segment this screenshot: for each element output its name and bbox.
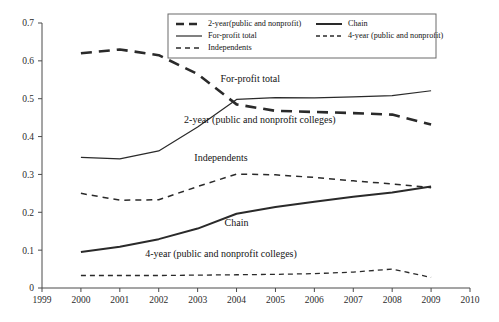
- series-line-chain: [81, 187, 431, 253]
- x-tick-label: 2006: [305, 295, 324, 305]
- line-chart: 00.10.20.30.40.50.60.7199920002001200220…: [0, 0, 499, 308]
- y-tick-label: 0.2: [22, 208, 34, 218]
- legend-label-chain: Chain: [348, 19, 368, 28]
- annotation-2-year-public-and-nonprofit-colleges: 2-year (public and nonprofit colleges): [184, 114, 336, 126]
- y-tick-label: 0.3: [22, 170, 34, 180]
- series-line-4-year-public-and-nonprofit: [81, 269, 431, 277]
- x-tick-label: 2005: [266, 295, 285, 305]
- annotation-4-year-public-and-nonprofit-colleges: 4-year (public and nonprofit colleges): [145, 248, 297, 260]
- y-tick-label: 0.1: [22, 246, 34, 256]
- x-tick-label: 2003: [188, 295, 207, 305]
- legend-label-for-profit-total: For-profit total: [208, 31, 257, 40]
- x-tick-label: 1999: [33, 295, 52, 305]
- series-line-independents: [81, 174, 431, 200]
- x-tick-label: 2001: [110, 295, 129, 305]
- series-line-for-profit-total: [81, 91, 431, 159]
- x-tick-label: 2008: [383, 295, 402, 305]
- legend-label-independents: Independents: [208, 43, 252, 52]
- legend-label-2-year-public-and-nonprofit: 2-year(public and nonprofit): [208, 19, 301, 28]
- figure-caption: [0, 308, 499, 322]
- x-tick-label: 2007: [344, 295, 363, 305]
- annotation-independents: Independents: [194, 152, 247, 163]
- annotation-chain: Chain: [225, 217, 249, 228]
- x-tick-label: 2010: [461, 295, 480, 305]
- x-tick-label: 2002: [149, 295, 168, 305]
- y-tick-label: 0.7: [22, 18, 34, 28]
- x-tick-label: 2009: [422, 295, 441, 305]
- y-tick-label: 0: [29, 283, 34, 293]
- y-tick-label: 0.6: [22, 56, 34, 66]
- chart-figure: 00.10.20.30.40.50.60.7199920002001200220…: [0, 0, 499, 322]
- annotation-for-profit-total: For-profit total: [220, 73, 280, 84]
- y-tick-label: 0.4: [22, 132, 34, 142]
- legend-label-4-year-public-and-nonprofit: 4-year (public and nonprofit): [348, 31, 444, 40]
- x-tick-label: 2004: [227, 295, 246, 305]
- x-tick-label: 2000: [71, 295, 90, 305]
- y-tick-label: 0.5: [22, 94, 34, 104]
